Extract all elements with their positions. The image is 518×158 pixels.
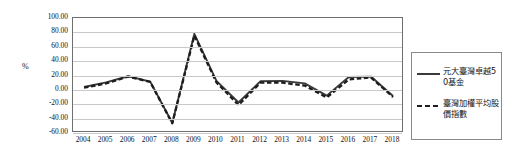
y-axis-tick-label: 40.00	[51, 56, 68, 64]
x-axis-tick-label: 2013	[274, 135, 289, 144]
y-axis-tick-label: -60.00	[49, 128, 68, 136]
legend-swatch-solid-line-icon	[416, 69, 441, 79]
x-axis-tick-label: 2015	[318, 135, 333, 144]
y-axis-tick-label: -40.00	[49, 114, 68, 122]
y-axis-tick-label: -20.00	[49, 99, 68, 107]
x-axis-tick-labels: 2004200520062007200820092010201120122013…	[72, 135, 403, 149]
legend-item-index: 臺灣加權平均股價指數	[416, 98, 501, 119]
chart-legend: 元大臺灣卓越50基金 臺灣加權平均股價指數	[411, 52, 502, 140]
y-axis-title: %	[22, 62, 29, 71]
y-axis-tick-label: 80.00	[51, 27, 68, 35]
x-axis-tick-label: 2006	[120, 135, 135, 144]
y-axis-tick-label: 20.00	[51, 71, 68, 79]
x-axis-tick-label: 2005	[98, 135, 113, 144]
x-axis-tick-label: 2011	[230, 135, 245, 144]
chart-container: 100.0080.0060.0040.0020.000.00-20.00-40.…	[0, 0, 518, 158]
y-axis-tick-label: 60.00	[51, 42, 68, 50]
gridline	[73, 119, 402, 120]
legend-label-index: 臺灣加權平均股價指數	[443, 98, 501, 119]
gridline	[73, 104, 402, 105]
x-axis-tick-label: 2018	[385, 135, 400, 144]
gridline	[73, 32, 402, 33]
x-axis-tick-label: 2007	[142, 135, 157, 144]
y-axis-tick-labels: 100.0080.0060.0040.0020.000.00-20.00-40.…	[20, 0, 68, 158]
x-axis-tick-label: 2010	[208, 135, 223, 144]
plot-area	[72, 17, 403, 132]
gridline	[73, 90, 402, 91]
legend-label-fund: 元大臺灣卓越50基金	[443, 66, 501, 87]
gridline	[73, 133, 402, 134]
gridline	[73, 47, 402, 48]
x-axis-tick-label: 2004	[76, 135, 91, 144]
x-axis-tick-label: 2009	[186, 135, 201, 144]
x-axis-tick-label: 2017	[363, 135, 378, 144]
x-axis-tick-label: 2012	[252, 135, 267, 144]
y-axis-tick-label: 0.00	[55, 85, 68, 93]
gridline	[73, 76, 402, 77]
y-axis-tick-label: 100.00	[48, 13, 68, 21]
legend-swatch-dashed-line-icon	[416, 101, 441, 111]
x-axis-tick-label: 2014	[296, 135, 311, 144]
legend-item-fund: 元大臺灣卓越50基金	[416, 66, 501, 87]
gridline	[73, 61, 402, 62]
x-axis-tick-label: 2016	[340, 135, 355, 144]
x-axis-tick-label: 2008	[164, 135, 179, 144]
